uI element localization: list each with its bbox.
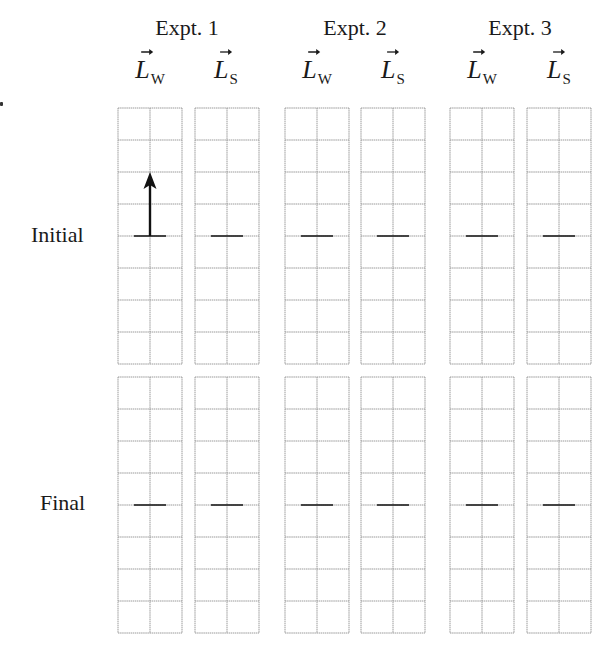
grid-diagram <box>0 0 612 665</box>
